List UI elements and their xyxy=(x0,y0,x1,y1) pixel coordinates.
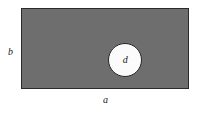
circular-hole: d xyxy=(108,43,142,77)
dimension-label-height-b: b xyxy=(8,47,13,57)
figure-canvas: d b a xyxy=(0,0,203,114)
hole-diameter-label: d xyxy=(109,44,141,76)
dimension-label-width-a: a xyxy=(103,95,108,105)
plate-rectangle: d xyxy=(21,8,189,89)
